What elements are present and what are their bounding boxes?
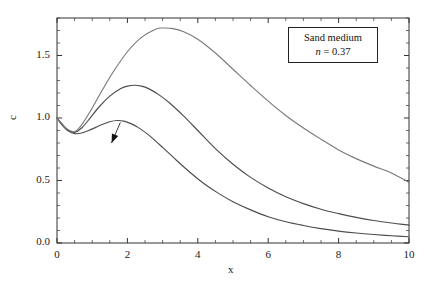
y-tick-label: 0.5	[14, 173, 50, 185]
x-tick-label: 0	[37, 248, 77, 260]
y-tick-label: 1.0	[14, 110, 50, 122]
x-axis-label: x	[228, 263, 234, 275]
y-tick-label: 1.5	[14, 48, 50, 60]
x-tick-label: 10	[389, 248, 429, 260]
x-tick-label: 6	[248, 248, 288, 260]
annotation-box: Sand medium n = 0.37	[288, 27, 378, 63]
annotation-arrowhead	[112, 133, 119, 143]
figure-chart: c x Sand medium n = 0.37 02468100.00.51.…	[0, 0, 436, 286]
series-line	[57, 85, 409, 225]
x-tick-label: 8	[319, 248, 359, 260]
porosity-value: = 0.37	[321, 46, 351, 57]
x-tick-label: 4	[178, 248, 218, 260]
curve-annotations	[112, 122, 121, 143]
annotation-line-1: Sand medium	[289, 31, 377, 45]
y-tick-label: 0.0	[14, 235, 50, 247]
series-line	[57, 118, 409, 237]
x-tick-label: 2	[107, 248, 147, 260]
annotation-line-2: n = 0.37	[289, 45, 377, 59]
